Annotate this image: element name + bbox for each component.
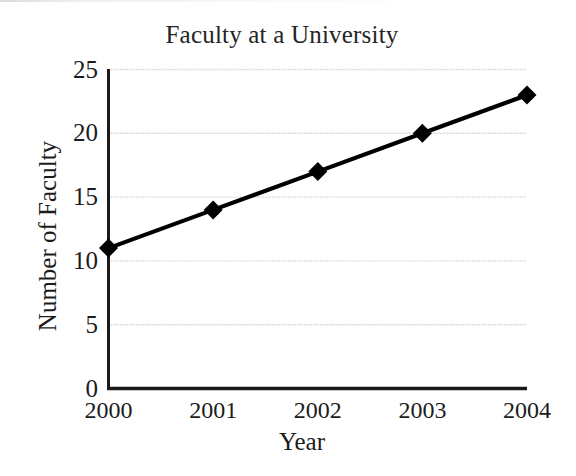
gridlines-group [109,70,528,325]
y-axis-title: Number of Faculty [34,96,62,376]
data-markers-group [99,86,537,258]
x-axis-tick-label: 2001 [189,396,237,424]
data-point-marker [518,86,537,105]
data-point-marker [413,124,432,143]
data-point-marker [308,162,327,181]
x-axis-tick-label: 2004 [503,396,551,424]
data-point-marker [99,239,118,258]
x-axis-tick-label: 2002 [294,396,342,424]
x-axis-title: Year [0,428,576,456]
x-axis-tick-labels: 20002001200220032004 [0,396,576,430]
plot-area: 0510152025 20002001200220032004 [0,0,576,476]
x-axis-tick-label: 2000 [85,396,133,424]
y-axis-tick-label: 25 [36,57,98,82]
data-point-marker [204,200,223,219]
chart-figure: Faculty at a University 0510152025 20002… [0,0,576,476]
x-axis-title-text: Year [279,428,325,455]
x-axis-tick-label: 2003 [398,396,446,424]
